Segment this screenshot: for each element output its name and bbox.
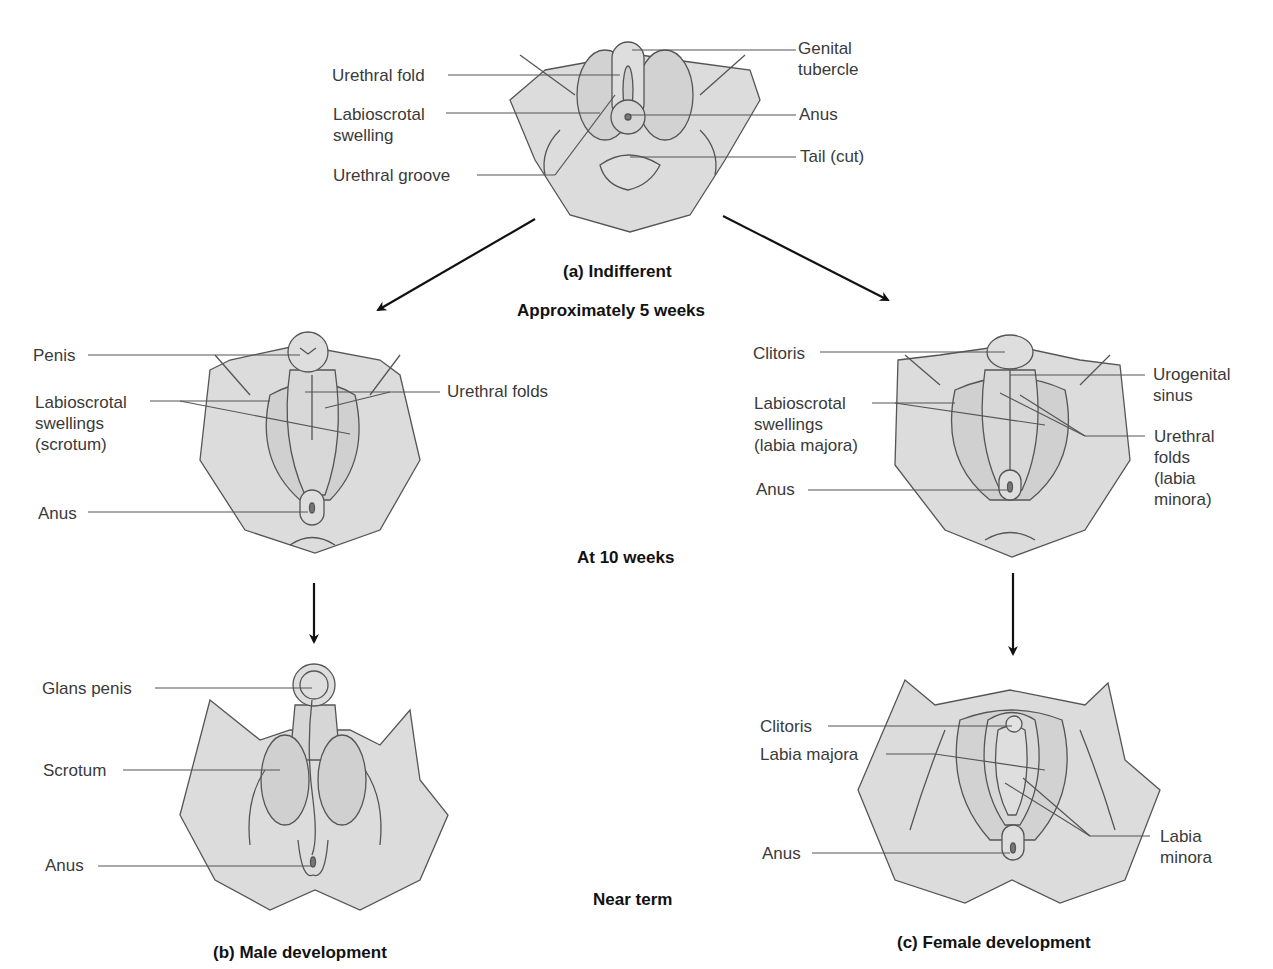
female-10wk-illustration xyxy=(895,335,1130,557)
caption-male-development: (b) Male development xyxy=(213,943,387,963)
label-labioscrotal-swelling: Labioscrotal swelling xyxy=(333,104,425,146)
label-genital-tubercle: Genital tubercle xyxy=(798,38,858,80)
label-penis: Penis xyxy=(33,345,76,366)
stage-age-10-weeks: At 10 weeks xyxy=(577,548,674,568)
label-urogenital-sinus: Urogenital sinus xyxy=(1153,364,1231,406)
label-anus-indifferent: Anus xyxy=(799,104,838,125)
label-labia-majora: Labia majora xyxy=(760,744,858,765)
label-labioscrotal-swellings-labia-majora: Labioscrotal swellings (labia majora) xyxy=(754,393,858,456)
label-urethral-folds-labia-minora: Urethral folds (labia minora) xyxy=(1154,426,1214,510)
label-anus-male-term: Anus xyxy=(45,855,84,876)
label-glans-penis: Glans penis xyxy=(42,678,132,699)
male-term-illustration xyxy=(180,664,448,910)
label-scrotum: Scrotum xyxy=(43,760,106,781)
label-anus-female-term: Anus xyxy=(762,843,801,864)
label-labia-minora: Labia minora xyxy=(1160,826,1212,868)
diagram-artwork xyxy=(0,0,1273,969)
label-urethral-fold: Urethral fold xyxy=(332,65,425,86)
stage-age-near-term: Near term xyxy=(593,890,672,910)
male-10wk-illustration xyxy=(200,332,420,553)
label-labioscrotal-swellings-scrotum: Labioscrotal swellings (scrotum) xyxy=(35,392,127,455)
caption-female-development: (c) Female development xyxy=(897,933,1091,953)
caption-indifferent: (a) Indifferent xyxy=(563,262,672,282)
label-clitoris-10wk: Clitoris xyxy=(753,343,805,364)
label-tail-cut: Tail (cut) xyxy=(800,146,864,167)
indifferent-stage-illustration xyxy=(510,42,760,232)
arrow-to-female xyxy=(723,216,888,300)
label-urethral-groove: Urethral groove xyxy=(333,165,450,186)
arrow-to-male xyxy=(378,219,535,310)
label-clitoris-term: Clitoris xyxy=(760,716,812,737)
stage-age-5-weeks: Approximately 5 weeks xyxy=(517,301,705,321)
label-anus-male-10wk: Anus xyxy=(38,503,77,524)
female-term-illustration xyxy=(858,680,1160,903)
label-anus-female-10wk: Anus xyxy=(756,479,795,500)
label-urethral-folds-male: Urethral folds xyxy=(447,381,548,402)
